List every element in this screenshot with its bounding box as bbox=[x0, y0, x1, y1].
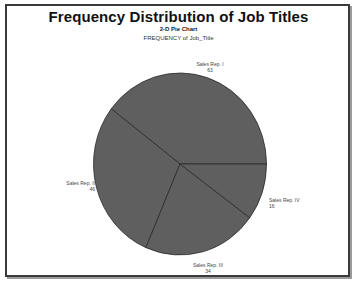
pie-slices bbox=[94, 73, 267, 255]
slice-label-sales-rep-1: Sales Rep. I 63 bbox=[190, 61, 230, 73]
slice-label-value: 16 bbox=[269, 203, 309, 209]
slice-label-value: 46 bbox=[50, 186, 95, 192]
slice-label-sales-rep-2: Sales Rep. II 46 bbox=[50, 180, 95, 192]
slice-label-value: 34 bbox=[188, 268, 228, 274]
slice-label-sales-rep-4: Sales Rep. IV 16 bbox=[269, 197, 309, 209]
slice-label-sales-rep-3: Sales Rep. III 34 bbox=[188, 262, 228, 274]
slice-label-value: 63 bbox=[190, 67, 230, 73]
pie-chart bbox=[0, 0, 357, 286]
